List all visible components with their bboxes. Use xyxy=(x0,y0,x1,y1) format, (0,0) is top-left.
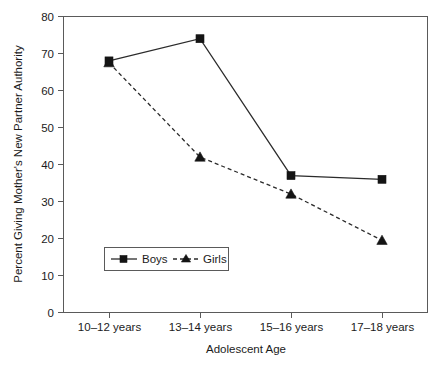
triangle-marker xyxy=(195,152,205,161)
y-tick-label-10: 10 xyxy=(41,270,54,282)
y-tick-label-80: 80 xyxy=(41,11,54,23)
y-tick-label-20: 20 xyxy=(41,233,54,245)
series-line-girls xyxy=(109,63,382,241)
x-tick-label-1: 13–14 years xyxy=(169,321,233,333)
square-marker xyxy=(287,172,295,180)
x-axis: 10–12 years 13–14 years 15–16 years 17–1… xyxy=(78,313,415,356)
y-tick-label-50: 50 xyxy=(41,122,54,134)
y-tick-label-30: 30 xyxy=(41,196,54,208)
y-axis-title: Percent Giving Mother's New Partner Auth… xyxy=(12,45,24,283)
square-marker xyxy=(196,35,204,43)
y-tick-group xyxy=(58,17,64,313)
series-line-boys xyxy=(109,39,382,180)
y-tick-label-40: 40 xyxy=(41,159,54,171)
x-tick-label-0: 10–12 years xyxy=(78,321,142,333)
series-boys xyxy=(105,35,386,184)
y-tick-label-0: 0 xyxy=(48,307,54,319)
legend-square-marker-icon xyxy=(120,256,127,263)
line-chart-canvas: 80 70 60 50 40 30 20 10 0 Percent Giving… xyxy=(0,0,438,366)
data-series-layer xyxy=(104,35,387,245)
legend-label-girls: Girls xyxy=(203,253,227,265)
triangle-marker xyxy=(377,235,387,244)
legend-label-boys: Boys xyxy=(142,253,168,265)
chart-figure: 80 70 60 50 40 30 20 10 0 Percent Giving… xyxy=(0,0,438,366)
y-tick-label-60: 60 xyxy=(41,85,54,97)
square-marker xyxy=(378,175,386,183)
x-tick-label-2: 15–16 years xyxy=(260,321,324,333)
square-marker xyxy=(105,57,113,65)
y-axis: 80 70 60 50 40 30 20 10 0 Percent Giving… xyxy=(12,11,64,319)
x-tick-label-3: 17–18 years xyxy=(351,321,415,333)
series-girls xyxy=(104,58,387,245)
y-tick-label-70: 70 xyxy=(41,48,54,60)
x-axis-title: Adolescent Age xyxy=(206,343,286,355)
chart-legend: Boys Girls xyxy=(105,248,229,271)
triangle-marker xyxy=(286,189,296,198)
